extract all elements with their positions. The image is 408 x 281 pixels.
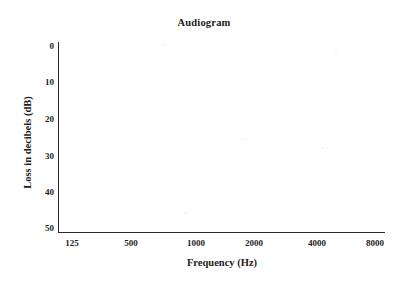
- x-axis-title: Frequency (Hz): [59, 257, 385, 268]
- x-tick-label: 500: [124, 238, 138, 248]
- x-tick-label: 1000: [187, 238, 205, 248]
- x-tick-label: 2000: [245, 238, 263, 248]
- x-tick-label: 125: [65, 238, 79, 248]
- x-tick-label: 8000: [366, 238, 384, 248]
- x-tick-label: 4000: [308, 238, 326, 248]
- audiogram-figure: Audiogram 0 10 20 30 40 50 125 500 1000 …: [0, 0, 408, 281]
- y-axis-title: Loss in decibels (dB): [22, 63, 33, 223]
- x-axis-ticks: 125 500 1000 2000 4000 8000: [0, 0, 408, 281]
